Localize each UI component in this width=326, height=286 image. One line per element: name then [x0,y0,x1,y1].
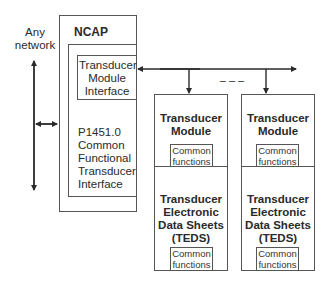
module-2-teds-common-functions: Common functions [256,248,299,270]
module-1-teds-common-functions: Common functions [170,248,213,270]
transducer-module-interface-label: Transducer Module Interface [79,59,135,98]
ncap-title: NCAP [74,26,108,39]
module-2-title: Transducer Module [243,112,313,138]
module-2-common-functions: Common functions [256,145,299,167]
module-1-title: Transducer Module [156,112,226,138]
module-2-teds-title: Transducer Electronic Data Sheets (TEDS) [243,193,313,245]
bus-ellipsis: – – – [214,74,250,87]
module-1-common-functions: Common functions [170,145,213,167]
network-label: Any network [14,26,56,52]
module-1-teds-title: Transducer Electronic Data Sheets (TEDS) [156,193,226,245]
functional-interface-label: P1451.0 Common Functional Transducer Int… [78,126,134,191]
